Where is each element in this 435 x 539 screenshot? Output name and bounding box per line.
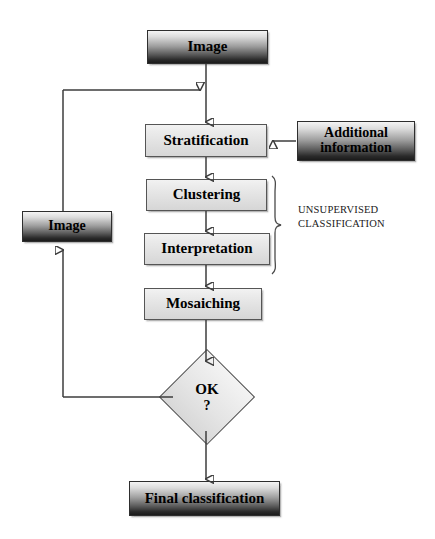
annotation-unsupervised-line2: CLASSIFICATION xyxy=(298,217,418,231)
node-decision-ok[interactable]: OK ? xyxy=(173,363,241,431)
node-clustering[interactable]: Clustering xyxy=(146,179,267,211)
annotation-unsupervised-classification: UNSUPERVISED CLASSIFICATION xyxy=(298,203,418,231)
node-additional-information-label-line1: Additional xyxy=(324,126,388,141)
node-interpretation[interactable]: Interpretation xyxy=(144,233,270,265)
node-decision-ok-label: OK xyxy=(195,382,218,397)
node-decision-ok-label-question: ? xyxy=(204,399,211,413)
node-final-classification[interactable]: Final classification xyxy=(129,481,280,516)
node-additional-information-label-line2: information xyxy=(320,141,392,156)
node-interpretation-label: Interpretation xyxy=(161,241,252,257)
annotation-unsupervised-line1: UNSUPERVISED xyxy=(298,203,418,217)
node-clustering-label: Clustering xyxy=(173,187,241,203)
node-image-top-label: Image xyxy=(188,39,228,55)
connector-layer xyxy=(0,0,435,539)
node-image-left[interactable]: Image xyxy=(22,211,112,242)
flowchart-canvas: Image Stratification Additional informat… xyxy=(0,0,435,539)
decision-ok-labels: OK ? xyxy=(173,363,241,431)
node-image-left-label: Image xyxy=(48,219,85,234)
node-additional-information[interactable]: Additional information xyxy=(297,121,415,161)
node-stratification[interactable]: Stratification xyxy=(145,124,267,157)
node-stratification-label: Stratification xyxy=(164,133,249,149)
curly-brace-icon xyxy=(272,176,281,274)
node-mosaiching-label: Mosaiching xyxy=(166,296,240,312)
node-final-classification-label: Final classification xyxy=(145,491,265,507)
node-image-top[interactable]: Image xyxy=(147,30,268,64)
node-mosaiching[interactable]: Mosaiching xyxy=(144,288,262,320)
